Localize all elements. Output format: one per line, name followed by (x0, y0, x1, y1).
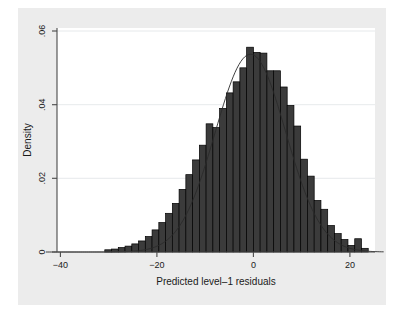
histogram-bar (226, 93, 233, 252)
histogram-bar (253, 52, 260, 252)
histogram-bar (328, 225, 335, 252)
histogram-bar (274, 71, 281, 252)
histogram-bar (213, 128, 220, 253)
y-tick-label-0: 0 (37, 249, 47, 254)
x-tick-label-0: 0 (251, 260, 256, 270)
histogram-bar (294, 126, 301, 252)
histogram-bar (287, 105, 294, 252)
histogram-bar (159, 223, 166, 252)
histogram-bar (301, 159, 308, 252)
x-tick-label-20: 20 (345, 260, 355, 270)
y-axis-title: Density (22, 123, 33, 156)
histogram-bar (267, 71, 274, 252)
y-tick-label-0.06: .06 (37, 25, 47, 38)
histogram-bar (247, 47, 254, 252)
x-axis-title: Predicted level–1 residuals (156, 276, 276, 287)
histogram-bar (152, 230, 159, 252)
histogram-bar (193, 160, 200, 252)
histogram-bar (220, 108, 227, 252)
x-tick-label--40: −40 (53, 260, 68, 270)
y-tick-label-0.02: .02 (37, 172, 47, 185)
histogram-bar (199, 145, 206, 252)
histogram-bar (314, 200, 321, 252)
histogram-bar (280, 87, 287, 252)
x-axis-ticks (60, 252, 350, 257)
histogram-bar (233, 82, 240, 252)
y-axis-ticks (52, 31, 57, 252)
histogram-chart: .06 .04 .02 0 Density −40 −20 0 20 Predi… (0, 0, 401, 313)
histogram-bar (166, 213, 173, 252)
histogram-bar (307, 176, 314, 252)
figure-container: .06 .04 .02 0 Density −40 −20 0 20 Predi… (0, 0, 401, 313)
histogram-bar (240, 68, 247, 252)
y-tick-label-0.04: .04 (37, 98, 47, 111)
histogram-bar (260, 53, 267, 252)
x-tick-label--20: −20 (149, 260, 164, 270)
